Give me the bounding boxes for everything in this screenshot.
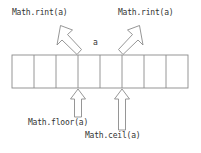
label-value-a: a: [93, 38, 98, 47]
rint-left-arrow: [57, 26, 82, 55]
rint-right-arrow: [119, 26, 144, 55]
floor-arrow: [71, 89, 86, 117]
label-rint-left: Math.rint(a): [12, 8, 67, 17]
rounding-diagram: Math.rint(a) Math.rint(a) a Math.floor(a…: [0, 0, 201, 153]
ceil-arrow: [115, 89, 130, 130]
number-line-grid: [12, 55, 188, 88]
label-ceil: Math.ceil(a): [85, 131, 140, 140]
label-rint-right: Math.rint(a): [118, 8, 173, 17]
label-floor: Math.floor(a): [28, 118, 88, 127]
